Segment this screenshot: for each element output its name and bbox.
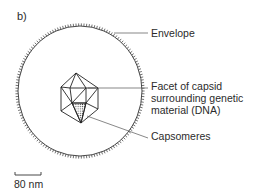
- capsomere-facet: [72, 103, 86, 123]
- facet-label-line3: material (DNA): [151, 104, 220, 116]
- capsomeres-label: Capsomeres: [151, 130, 211, 142]
- scale-bar: [15, 172, 41, 175]
- capsomeres-leader: [87, 116, 148, 138]
- facet-label-line2: surrounding genetic: [151, 92, 243, 104]
- envelope-label: Envelope: [151, 27, 195, 39]
- facet-label-line1: Facet of capsid: [151, 80, 222, 92]
- envelope-circle: [15, 23, 144, 158]
- scale-bar-label: 80 nm: [14, 178, 43, 190]
